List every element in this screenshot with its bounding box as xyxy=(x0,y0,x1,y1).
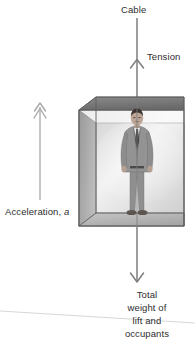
label-tension: Tension xyxy=(147,51,180,63)
label-weight-line-1: Total xyxy=(104,288,190,301)
shoe-left xyxy=(127,210,137,215)
label-weight-line-3: lift and xyxy=(104,314,190,327)
weight-arrow xyxy=(131,226,144,282)
label-weight-line-2: weight of xyxy=(104,301,190,314)
shoe-right xyxy=(138,210,148,215)
label-acceleration-symbol: a xyxy=(64,206,69,217)
label-weight: Total weight of lift and occupants xyxy=(104,288,190,340)
acceleration-arrow xyxy=(34,103,46,200)
label-weight-line-4: occupants xyxy=(104,327,190,340)
label-acceleration: Acceleration, a xyxy=(5,206,69,218)
label-cable: Cable xyxy=(121,4,146,16)
lift-ceiling xyxy=(79,97,184,110)
label-acceleration-text: Acceleration, xyxy=(5,206,64,217)
